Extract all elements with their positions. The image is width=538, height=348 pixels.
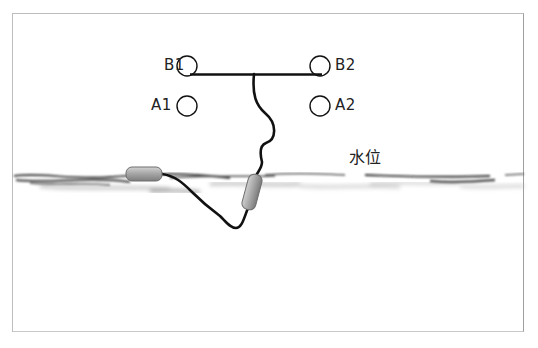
- diagram-canvas: [0, 0, 538, 348]
- electrode-b2: [310, 56, 330, 76]
- electrode-a1: [177, 96, 197, 116]
- label-a1: A1: [151, 98, 172, 113]
- left-float-icon: [126, 167, 162, 181]
- label-a2: A2: [335, 98, 356, 113]
- water-level-label: 水位: [349, 150, 381, 166]
- electrode-a2: [310, 96, 330, 116]
- label-b2: B2: [335, 58, 356, 73]
- label-b1: B1: [164, 58, 185, 73]
- water-surface: [14, 173, 524, 192]
- right-float-icon: [241, 173, 264, 211]
- cable-upper: [253, 74, 274, 176]
